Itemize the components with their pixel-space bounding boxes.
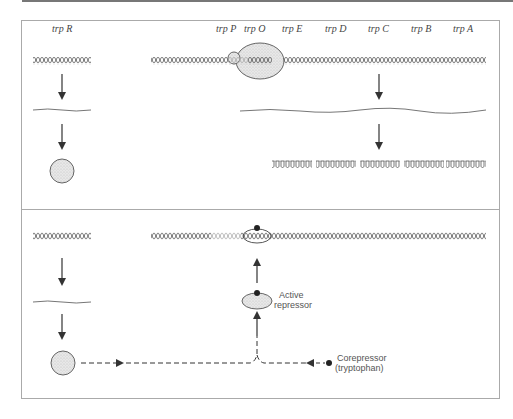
top-panel-content: trp R trp P trp O trp E trp D trp C trp … [33, 23, 486, 183]
label-trp-r: trp R [52, 23, 72, 34]
trp-r-dna-helix-bottom [33, 232, 91, 240]
label-trp-e: trp E [282, 23, 302, 34]
operon-dna-light-promoter [211, 232, 241, 240]
label-trp-c: trp C [368, 23, 389, 34]
polypeptide-trp-a [446, 160, 486, 168]
label-trp-b: trp B [411, 23, 431, 34]
bound-corepressor-dot [254, 225, 260, 231]
polypeptide-trp-c [360, 160, 400, 168]
label-trp-o: trp O [244, 23, 265, 34]
corepressor-dot [326, 360, 332, 366]
dashed-path-to-junction [126, 355, 257, 363]
trp-operon-diagram: trp R trp P trp O trp E trp D trp C trp … [0, 0, 513, 419]
active-repressor [242, 290, 272, 309]
label-trp-p: trp P [216, 23, 236, 34]
rna-polymerase-blob [228, 43, 284, 79]
polypeptide-trp-e [272, 160, 312, 168]
active-repressor-label-line1: Active [279, 290, 304, 300]
corepressor-label-line1: Corepressor [337, 353, 387, 363]
corepressor-label-line2: (tryptophan) [335, 363, 384, 373]
operon-mrna [240, 108, 486, 113]
active-repressor-label-line2: repressor [274, 300, 312, 310]
label-trp-a: trp A [453, 23, 474, 34]
polypeptide-trp-b [404, 160, 444, 168]
operon-dna-dark-left [151, 232, 211, 240]
trp-r-mrna-bottom [33, 301, 91, 303]
active-repressor-corepressor-dot [254, 290, 260, 296]
operon-dna-helix [151, 57, 486, 65]
trp-r-mrna [33, 109, 91, 111]
top-rule [22, 0, 513, 2]
polypeptides [272, 160, 486, 168]
label-trp-d: trp D [325, 23, 347, 34]
repressor-protein-bottom [51, 351, 75, 375]
trp-r-dna-helix [33, 57, 91, 65]
polypeptide-trp-d [316, 160, 356, 168]
bottom-panel-content: Active repressor Corepressor (tryptophan… [33, 225, 486, 375]
operon-dna-dark-right [241, 232, 486, 240]
corepressor-arrowhead [306, 359, 314, 367]
inactive-repressor-protein [50, 159, 74, 183]
dashed-path-corepressor [257, 355, 308, 363]
